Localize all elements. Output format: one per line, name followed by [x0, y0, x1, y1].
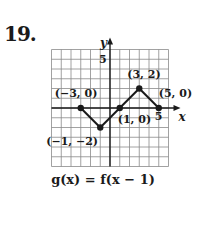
data-point [117, 105, 123, 111]
x-tick-label: 5 [155, 110, 163, 123]
y-tick-label: 5 [99, 53, 107, 66]
function-caption: g(x) = f(x − 1) [0, 172, 206, 187]
point-label: (1, 0) [118, 113, 151, 126]
y-axis-arrow-icon [107, 38, 113, 45]
point-label: (−3, 0) [55, 87, 98, 100]
point-label: (5, 0) [159, 87, 192, 100]
y-axis-label: y [99, 36, 108, 50]
data-point [97, 124, 103, 130]
point-label: (3, 2) [127, 68, 160, 81]
data-point [156, 105, 162, 111]
point-label: (−1, −2) [46, 135, 98, 148]
x-axis-label: x [178, 110, 187, 124]
data-point [78, 105, 84, 111]
data-point [136, 85, 142, 91]
